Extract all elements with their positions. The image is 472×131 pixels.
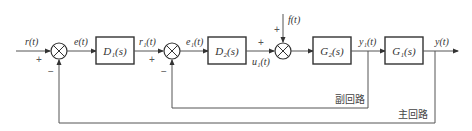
summing-junction-2 [164,43,180,59]
sum1-minus-sign: − [48,66,54,77]
sum2-minus-sign: − [161,66,167,77]
output-label: y(t) [434,36,450,48]
disturbance-label: f(t) [288,14,301,26]
y1-label: y₁(t) [358,36,377,48]
sum3-disturbance-plus-sign: + [274,24,280,35]
summing-junction-1 [51,43,67,59]
outer-loop-label: 主回路 [398,108,428,120]
summing-junction-3 [275,43,291,59]
e1-label: e₁(t) [186,36,204,48]
cascade-control-block-diagram: r(t) + − e(t) D₁(s) r₁(t) + − e₁(t) D₂(s… [0,0,472,131]
d1-label: D₁(s) [102,45,127,58]
g1-label: G₁(s) [392,45,416,58]
error-label: e(t) [74,36,89,48]
sum3-plus-sign: + [258,37,264,48]
d2-label: D₂(s) [214,45,239,58]
sum2-plus-sign: + [149,54,155,65]
g2-label: G₂(s) [320,45,344,58]
sum1-plus-sign: + [36,54,42,65]
r1-label: r₁(t) [139,36,156,48]
input-label: r(t) [25,36,39,48]
inner-loop-label: 副回路 [335,93,365,105]
u1-label: u₁(t) [252,56,271,68]
